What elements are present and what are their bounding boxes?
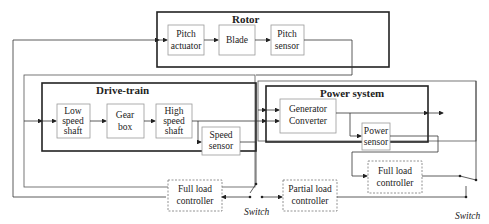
svg-text:Power: Power <box>364 126 389 136</box>
low-speed-shaft-line2: speed <box>62 116 84 126</box>
svg-text:sensor: sensor <box>364 137 389 147</box>
svg-text:sensor: sensor <box>275 41 300 51</box>
svg-text:Blade: Blade <box>226 35 248 45</box>
blade-label: Blade <box>226 35 248 45</box>
svg-text:controller: controller <box>177 196 215 206</box>
svg-text:Partial load: Partial load <box>288 184 332 194</box>
speed-sensor-line2: sensor <box>209 141 234 151</box>
full-load-controller-left-line1: Full load <box>178 184 212 194</box>
partial-load-controller-line1: Partial load <box>288 184 332 194</box>
svg-text:speed: speed <box>163 116 185 126</box>
svg-text:Generator: Generator <box>289 104 328 114</box>
full-load-controller-left-line2: controller <box>177 196 215 206</box>
pitch-actuator-line1: Pitch <box>176 29 196 39</box>
drivetrain-title: Drive-train <box>96 84 149 96</box>
low-speed-shaft-line3: shaft <box>64 126 83 136</box>
svg-text:Low: Low <box>64 106 82 116</box>
svg-text:actuator: actuator <box>171 41 202 51</box>
power-sensor-line1: Power <box>364 126 389 136</box>
svg-text:shaft: shaft <box>165 126 184 136</box>
svg-text:Converter: Converter <box>289 116 328 126</box>
generator-converter-line1: Generator <box>289 104 328 114</box>
svg-text:Gear: Gear <box>116 110 135 120</box>
gear-box-line1: Gear <box>116 110 135 120</box>
pitch-sensor-line1: Pitch <box>277 29 297 39</box>
low-speed-shaft-line1: Low <box>64 106 82 116</box>
high-speed-shaft-line3: shaft <box>165 126 184 136</box>
svg-text:speed: speed <box>62 116 84 126</box>
svg-text:High: High <box>165 106 184 116</box>
rotor-title: Rotor <box>232 13 260 25</box>
wind-turbine-block-diagram: Rotor Drive-train Power system Pitch act… <box>0 0 489 224</box>
full-load-controller-right-line2: controller <box>377 178 415 188</box>
pitch-actuator-line2: actuator <box>171 41 202 51</box>
generator-converter-line2: Converter <box>289 116 328 126</box>
svg-text:Pitch: Pitch <box>176 29 196 39</box>
partial-load-controller-line2: controller <box>292 196 330 206</box>
svg-text:controller: controller <box>292 196 330 206</box>
svg-text:Speed: Speed <box>209 130 232 140</box>
full-load-controller-right-line1: Full load <box>378 166 412 176</box>
switch-left-label: Switch <box>244 207 270 217</box>
pitch-sensor-line2: sensor <box>275 41 300 51</box>
high-speed-shaft-line1: High <box>165 106 184 116</box>
power-sensor-line2: sensor <box>364 137 389 147</box>
gear-box-line2: box <box>118 122 133 132</box>
speed-sensor-line1: Speed <box>209 130 232 140</box>
svg-text:controller: controller <box>377 178 415 188</box>
switch-right-label: Switch <box>455 211 481 221</box>
svg-text:Full load: Full load <box>378 166 412 176</box>
high-speed-shaft-line2: speed <box>163 116 185 126</box>
svg-text:Full load: Full load <box>178 184 212 194</box>
power-system-title: Power system <box>320 87 384 99</box>
svg-text:shaft: shaft <box>64 126 83 136</box>
svg-text:sensor: sensor <box>209 141 234 151</box>
svg-text:box: box <box>118 122 133 132</box>
svg-text:Pitch: Pitch <box>277 29 297 39</box>
